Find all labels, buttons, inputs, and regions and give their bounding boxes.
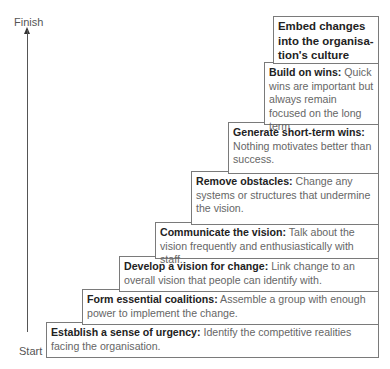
step-2-box: Form essential coalitions: Assemble a gr…: [82, 289, 379, 325]
step-1-box: Establish a sense of urgency: Identify t…: [46, 322, 379, 358]
step-6-box: Generate short-term wins: Nothing motiva…: [228, 122, 379, 174]
step-8-box: Embed changes into the organisa-tion's c…: [273, 16, 379, 64]
step-7-box: Build on wins: Quick wins are important …: [264, 62, 379, 125]
step-title: Communicate the vision:: [160, 226, 286, 238]
step-title: Build on wins:: [269, 66, 341, 78]
progress-axis: [27, 30, 28, 332]
step-title: Form essential coalitions:: [87, 293, 218, 305]
step-title: Develop a vision for change:: [124, 260, 268, 272]
step-3-box: Develop a vision for change: Link change…: [119, 256, 379, 292]
step-title: Embed changes into the organisa-tion's c…: [278, 20, 374, 61]
step-title: Establish a sense of urgency:: [51, 326, 201, 338]
step-4-box: Communicate the vision: Talk about the v…: [155, 222, 379, 259]
step-title: Generate short-term wins:: [233, 126, 365, 138]
step-desc: Nothing motivates better than success.: [233, 140, 371, 166]
step-5-box: Remove obstacles: Change any systems or …: [191, 171, 379, 225]
start-label: Start: [19, 345, 42, 357]
step-title: Remove obstacles:: [196, 175, 293, 187]
